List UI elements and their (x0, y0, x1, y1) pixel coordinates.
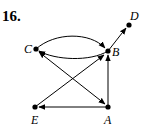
label-b: B (112, 45, 120, 59)
label-c: C (24, 42, 33, 56)
label-d: D (129, 9, 139, 23)
edge-e-b (35, 55, 104, 107)
node-a (105, 104, 110, 109)
edge-c-b (36, 36, 105, 49)
node-c (33, 46, 38, 51)
label-a: A (103, 113, 112, 127)
node-b (105, 48, 110, 53)
directed-graph: A B C D E (0, 0, 148, 127)
edge-b-c (39, 51, 108, 59)
label-e: E (30, 113, 39, 127)
node-d (126, 22, 131, 27)
node-e (32, 104, 37, 109)
